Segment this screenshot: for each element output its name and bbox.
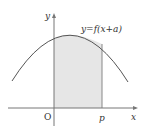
y-axis-label: y [44,11,51,21]
y-axis-arrow-icon [52,13,56,18]
origin-label: O [44,112,51,122]
x-axis-label: x [131,112,136,122]
graph-canvas: y y=f(x+a) O p x [0,0,145,134]
curve-label: y=f(x+a) [80,24,122,34]
p-label: p [99,113,105,123]
shaded-area [54,35,102,108]
x-axis-arrow-icon [133,106,138,110]
